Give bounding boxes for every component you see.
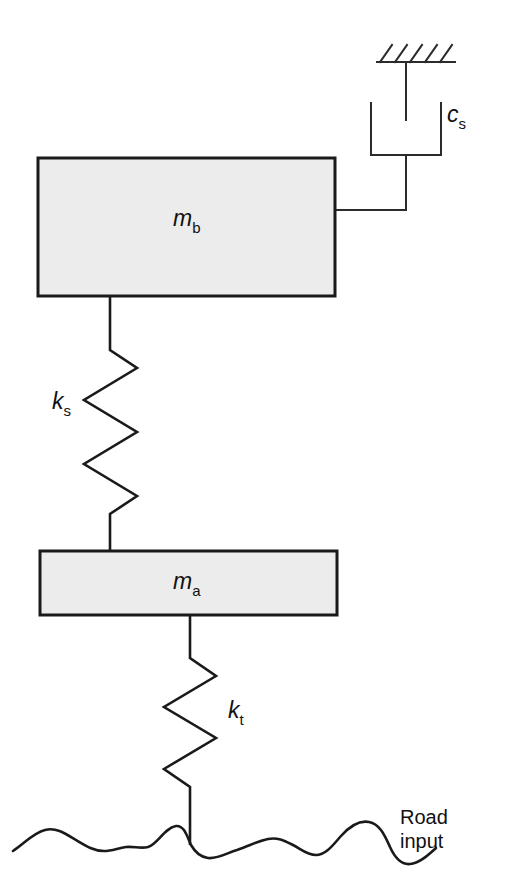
quarter-car-suspension-diagram: cs mb ks ma kt Road input [0, 0, 506, 894]
schematic-canvas: cs mb ks ma kt Road input [0, 0, 506, 894]
suspension-spring [84, 296, 137, 551]
road-profile-curve [13, 822, 436, 864]
tire-spring-label: kt [228, 697, 245, 728]
tire-spring [164, 615, 216, 845]
suspension-spring-label: ks [52, 388, 71, 419]
damper-connecting-rod [335, 155, 406, 210]
ground-support-icon [377, 45, 455, 62]
road-input-label-line2: input [400, 830, 444, 852]
damper-label: cs [447, 101, 466, 132]
road-input-label-line1: Road [400, 806, 448, 828]
